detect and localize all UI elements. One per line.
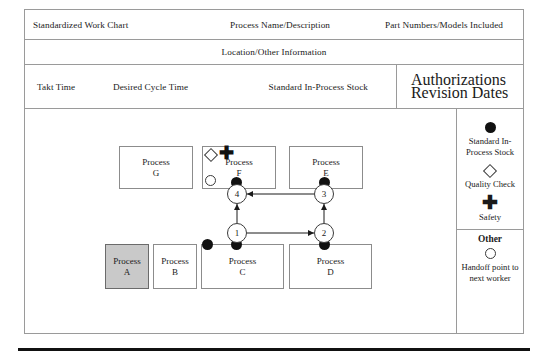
legend-label-safety: Safety — [457, 212, 523, 223]
step-circle-2[interactable]: 2 — [314, 223, 334, 243]
legend-item-quality-check: Quality Check — [457, 163, 523, 190]
flow-arrows — [25, 109, 458, 333]
process-flow-diagram: Process G Process F ✚ Process E 4 3 1 2 — [25, 109, 457, 333]
standard-stock-icon — [457, 120, 523, 135]
chart-title-cell: Standardized Work Chart — [25, 10, 195, 39]
step-circle-4[interactable]: 4 — [227, 184, 247, 204]
header-row-metrics: Takt Time Desired Cycle Time Standard In… — [25, 65, 523, 109]
legend-item-standard-stock: Standard In-Process Stock — [457, 120, 523, 157]
header-row-titles: Standardized Work Chart Process Name/Des… — [25, 10, 523, 40]
desired-cycle-time-cell: Desired Cycle Time — [105, 65, 241, 108]
legend-panel: Standard In-Process Stock Quality Check … — [457, 109, 523, 333]
safety-icon: ✚ — [457, 196, 523, 211]
legend-item-handoff: Handoff point to next worker — [457, 246, 523, 283]
page-divider-rule — [18, 348, 530, 351]
authorizations-cell: Authorizations Revision Dates — [396, 65, 523, 108]
legend-label-quality-check: Quality Check — [457, 179, 523, 190]
legend-other-section: Other Handoff point to next worker — [457, 229, 523, 289]
standard-in-process-stock-cell: Standard In-Process Stock — [241, 65, 396, 108]
legend-label-handoff: Handoff point to next worker — [457, 262, 523, 283]
process-name-cell: Process Name/Description — [195, 10, 365, 39]
handoff-point-icon — [457, 246, 523, 261]
legend-item-safety: ✚ Safety — [457, 196, 523, 223]
step-circle-1[interactable]: 1 — [227, 223, 247, 243]
location-cell: Location/Other Information — [25, 40, 523, 64]
chart-body: Process G Process F ✚ Process E 4 3 1 2 — [25, 109, 523, 333]
step-circle-3[interactable]: 3 — [314, 184, 334, 204]
revision-dates-label: Revision Dates — [411, 87, 508, 100]
part-numbers-cell: Part Numbers/Models Included — [365, 10, 523, 39]
takt-time-cell: Takt Time — [25, 65, 105, 108]
header-row-location: Location/Other Information — [25, 40, 523, 65]
standardized-work-chart: Standardized Work Chart Process Name/Des… — [24, 9, 524, 334]
legend-label-standard-stock: Standard In-Process Stock — [457, 136, 523, 157]
legend-other-title: Other — [457, 234, 523, 244]
quality-check-icon — [457, 163, 523, 178]
